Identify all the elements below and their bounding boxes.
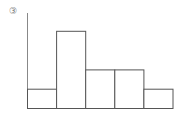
histogram-bar-3 [86, 70, 115, 109]
histogram-bar-1 [28, 89, 57, 108]
bars-group [28, 31, 174, 108]
histogram-bar-4 [115, 70, 144, 109]
histogram-bar-2 [57, 31, 86, 108]
histogram-bar-5 [144, 89, 173, 108]
histogram [0, 0, 185, 117]
